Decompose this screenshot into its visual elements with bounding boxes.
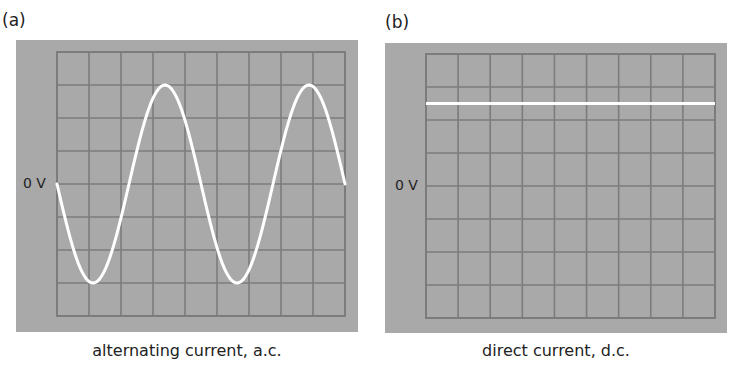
grid-dc [426,54,715,318]
caption-ac: alternating current, a.c. [16,341,358,360]
oscilloscope-graphics [0,0,737,375]
caption-dc: direct current, d.c. [385,341,727,360]
